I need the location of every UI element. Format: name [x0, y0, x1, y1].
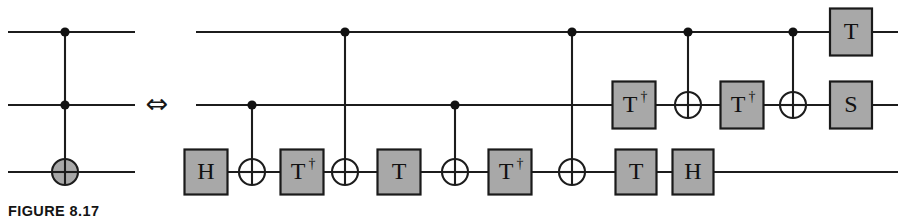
gate-Tdag-3[interactable]: T† [489, 150, 532, 195]
toffoli-gate-circuit [8, 27, 135, 185]
gate-label: T [623, 91, 638, 117]
cnot-control-dot-0 [247, 100, 256, 109]
toffoli-decomposition-circuit: HT†TT†THT†T†ST [185, 9, 899, 195]
cnot-target-node-5 [780, 92, 806, 118]
cnot-target-node-2 [442, 159, 468, 185]
quantum-circuit-diagram: ⇔ HT†TT†THT†T†ST [0, 0, 903, 200]
gate-dagger-symbol: † [517, 156, 524, 171]
figure-container: ⇔ HT†TT†THT†T†ST FIGURE 8.17 [0, 0, 903, 224]
cnot-control-dot-1 [340, 27, 349, 36]
gate-T-9[interactable]: T [830, 9, 872, 56]
cnot-target-node-3 [559, 159, 585, 185]
cnot-target-node-4 [675, 92, 701, 118]
cnot-target-node-0 [239, 159, 265, 185]
gate-dagger-symbol: † [641, 89, 648, 104]
toffoli-target-node [52, 159, 78, 185]
gate-label: S [844, 91, 857, 117]
gate-label: T [844, 18, 859, 44]
cnot-control-dot-4 [683, 27, 692, 36]
cnot-control-dot-3 [567, 27, 576, 36]
gate-S-8[interactable]: S [830, 82, 872, 129]
equivalence-icon: ⇔ [146, 88, 169, 119]
gate-dagger-symbol: † [749, 89, 756, 104]
toffoli-control-dot-top [60, 27, 69, 36]
gate-Tdag-1[interactable]: T† [281, 150, 324, 195]
gate-label: H [684, 158, 701, 184]
cnot-target-node-1 [332, 159, 358, 185]
cnot-control-dot-2 [450, 100, 459, 109]
gate-H-5[interactable]: H [673, 150, 714, 195]
gate-dagger-symbol: † [309, 156, 316, 171]
equivalence-symbol-group: ⇔ [146, 88, 169, 119]
gate-Tdag-7[interactable]: T† [721, 82, 764, 129]
gate-label: T [392, 158, 407, 184]
cnot-control-dot-5 [788, 27, 797, 36]
toffoli-control-dot-middle [60, 100, 69, 109]
gate-label: T [499, 158, 514, 184]
gate-label: T [731, 91, 746, 117]
gate-label: T [629, 158, 644, 184]
gate-Tdag-6[interactable]: T† [613, 82, 656, 129]
gate-H-0[interactable]: H [185, 150, 228, 195]
gate-label: T [291, 158, 306, 184]
figure-caption: FIGURE 8.17 [8, 203, 99, 219]
gate-label: H [197, 158, 214, 184]
gate-T-2[interactable]: T [378, 150, 421, 195]
gate-T-4[interactable]: T [616, 150, 657, 195]
